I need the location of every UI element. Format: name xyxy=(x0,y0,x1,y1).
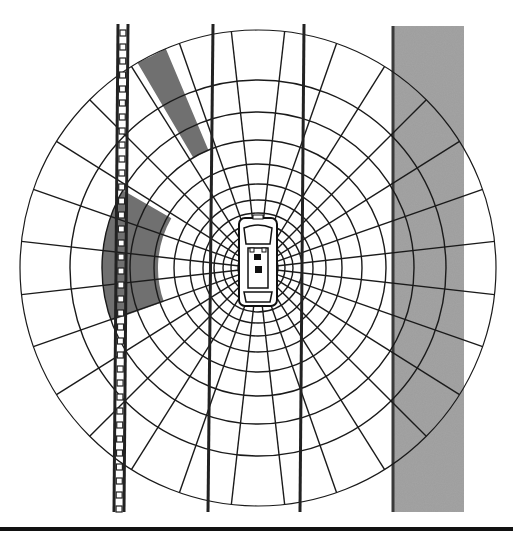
ladder-guardrail xyxy=(114,24,128,512)
baseline-rule xyxy=(0,527,513,531)
polar-grid-diagram xyxy=(0,0,513,544)
concrete-wall xyxy=(392,26,464,512)
vehicle-icon xyxy=(239,215,277,306)
